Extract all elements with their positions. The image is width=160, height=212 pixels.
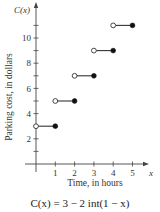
y-tick-label: 8	[27, 58, 32, 68]
y-tick-label: 4	[27, 109, 32, 119]
step-segment	[111, 23, 135, 28]
step-segments	[34, 23, 135, 129]
closed-endpoint-icon	[111, 48, 116, 53]
closed-endpoint-icon	[130, 23, 135, 28]
function-formula: C(x) = 3 − 2 int(1 − x)	[0, 197, 160, 209]
open-endpoint-icon	[72, 73, 77, 78]
y-axis-arrow-icon	[34, 2, 38, 8]
x-tick-label: 1	[53, 168, 58, 178]
open-endpoint-icon	[53, 99, 58, 104]
open-endpoint-icon	[92, 48, 97, 53]
x-axis-arrow-icon	[143, 162, 149, 166]
open-endpoint-icon	[111, 23, 116, 28]
step-segment	[72, 73, 96, 78]
x-tick-label: 2	[72, 168, 77, 178]
y-tick-label: 2	[27, 134, 32, 144]
y-tick-label: 6	[27, 84, 32, 94]
y-axis-function-label: C(x)	[14, 5, 30, 15]
x-axis-title: Time, in hours	[40, 178, 150, 188]
x-tick-label: 4	[111, 168, 116, 178]
closed-endpoint-icon	[72, 99, 77, 104]
closed-endpoint-icon	[53, 124, 58, 129]
step-segment	[53, 99, 77, 104]
x-axis-variable-label: x	[148, 168, 153, 178]
open-endpoint-icon	[34, 124, 39, 129]
y-tick-label: 10	[22, 33, 32, 43]
y-axis-title: Parking cost, in dollars	[4, 53, 14, 141]
x-tick-label: 5	[130, 168, 135, 178]
axes: 12345246810	[22, 2, 149, 178]
step-segment	[34, 124, 58, 129]
step-segment	[92, 48, 116, 53]
x-tick-label: 3	[92, 168, 97, 178]
closed-endpoint-icon	[92, 73, 97, 78]
